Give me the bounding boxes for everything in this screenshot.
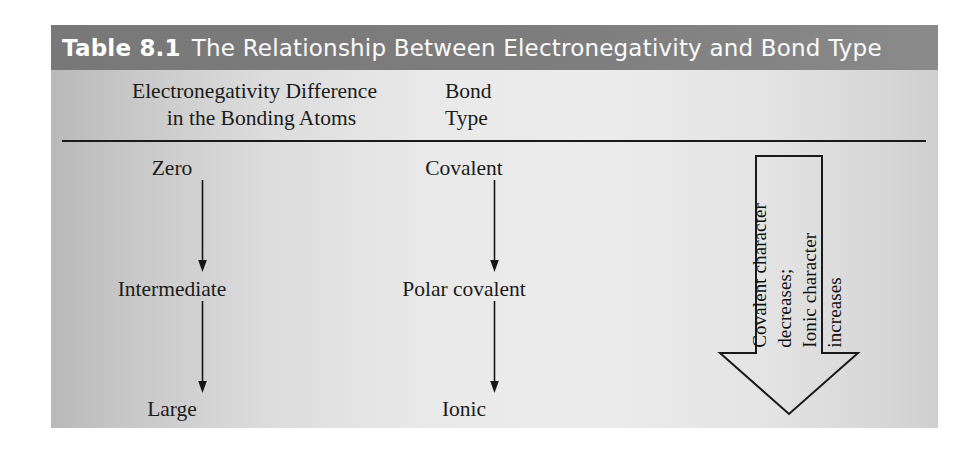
down-arrow-icon-col2-row2 xyxy=(488,301,501,393)
column-header-bond-type-line1: Bond xyxy=(445,78,492,105)
column-header-electronegativity-line2: in the Bonding Atoms xyxy=(62,105,447,132)
cell-bond-type-1: Polar covalent xyxy=(402,277,526,302)
column-header-electronegativity-line1: Electronegativity Difference xyxy=(62,78,447,105)
table-number-label: Table 8.1 xyxy=(51,35,181,61)
cell-electronegativity-2: Large xyxy=(147,397,197,422)
column-header-bond-type-line2: Type xyxy=(445,105,492,132)
down-arrow-icon-col1-row2 xyxy=(196,301,209,393)
cell-bond-type-2: Ionic xyxy=(442,397,486,422)
table-title-bar: Table 8.1 The Relationship Between Elect… xyxy=(51,25,938,70)
cell-bond-type-0: Covalent xyxy=(425,156,503,181)
column-header-bond-type: Bond Type xyxy=(445,78,492,132)
table-title-text: The Relationship Between Electronegativi… xyxy=(181,35,882,61)
column-header-electronegativity: Electronegativity Difference in the Bond… xyxy=(62,78,447,132)
down-arrow-icon-col1-row1 xyxy=(196,180,209,272)
header-divider-rule xyxy=(62,140,926,142)
cell-electronegativity-0: Zero xyxy=(152,156,193,181)
down-arrow-icon-col2-row1 xyxy=(488,180,501,272)
large-block-down-arrow-icon xyxy=(704,154,889,416)
cell-electronegativity-1: Intermediate xyxy=(118,277,227,302)
table-panel: Table 8.1 The Relationship Between Elect… xyxy=(51,25,938,428)
